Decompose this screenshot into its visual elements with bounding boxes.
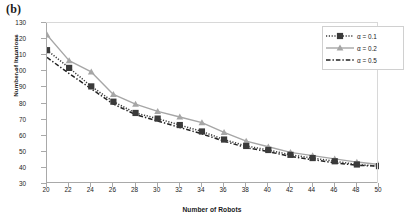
y-tick-label: 110	[0, 51, 26, 58]
x-tick-mark	[245, 183, 246, 187]
data-point	[376, 163, 379, 169]
x-tick-mark	[378, 183, 379, 187]
y-tick-mark	[41, 135, 46, 136]
y-tick-label: 40	[0, 163, 26, 170]
data-point	[332, 158, 338, 164]
x-tick-mark	[112, 183, 113, 187]
legend-item-3[interactable]: α = 0.5	[325, 54, 400, 66]
y-tick-mark	[41, 38, 46, 39]
x-tick-mark	[312, 183, 313, 187]
legend-label: α = 0.2	[355, 45, 377, 52]
legend-label: α = 0.1	[355, 33, 377, 40]
data-point	[221, 136, 227, 142]
data-point	[110, 99, 116, 105]
data-point	[265, 147, 271, 153]
x-tick-mark	[223, 183, 224, 187]
legend-label: α = 0.5	[355, 57, 377, 64]
y-tick-label: 100	[0, 67, 26, 74]
legend-swatch	[325, 31, 355, 41]
data-point	[155, 116, 161, 122]
x-tick-mark	[46, 183, 47, 187]
x-tick-mark	[68, 183, 69, 187]
legend-swatch	[325, 55, 355, 65]
y-tick-label: 70	[0, 115, 26, 122]
data-point	[47, 31, 50, 37]
y-tick-label: 60	[0, 131, 26, 138]
y-tick-label: 120	[0, 35, 26, 42]
y-tick-mark	[41, 22, 46, 23]
data-point	[88, 69, 95, 75]
x-tick-mark	[356, 183, 357, 187]
data-point	[88, 83, 94, 89]
y-tick-mark	[41, 119, 46, 120]
y-tick-label: 50	[0, 147, 26, 154]
x-tick-mark	[334, 183, 335, 187]
chart-container: (b) Number of Iterations Number of Robot…	[0, 0, 407, 220]
legend: α = 0.1α = 0.2α = 0.5	[322, 26, 404, 70]
data-point	[47, 47, 50, 53]
y-tick-label: 130	[0, 19, 26, 26]
series-3	[47, 57, 379, 166]
x-tick-label: 50	[363, 186, 393, 193]
data-point	[354, 161, 360, 167]
data-point	[310, 155, 316, 161]
y-tick-label: 30	[0, 180, 26, 187]
data-point	[132, 110, 138, 116]
data-point	[199, 128, 205, 134]
x-tick-mark	[157, 183, 158, 187]
data-point	[287, 152, 293, 158]
y-tick-mark	[41, 54, 46, 55]
y-tick-mark	[41, 86, 46, 87]
legend-swatch	[325, 43, 355, 53]
legend-item-2[interactable]: α = 0.2	[325, 42, 400, 54]
y-tick-label: 90	[0, 83, 26, 90]
data-point	[243, 143, 249, 149]
x-tick-mark	[135, 183, 136, 187]
x-tick-mark	[179, 183, 180, 187]
legend-item-1[interactable]: α = 0.1	[325, 30, 400, 42]
y-tick-mark	[41, 70, 46, 71]
y-tick-mark	[41, 151, 46, 152]
y-tick-mark	[41, 103, 46, 104]
x-axis-label: Number of Robots	[46, 206, 378, 213]
y-tick-label: 80	[0, 99, 26, 106]
data-point	[66, 65, 72, 71]
x-tick-mark	[267, 183, 268, 187]
x-tick-mark	[201, 183, 202, 187]
y-tick-mark	[41, 167, 46, 168]
data-point	[177, 122, 183, 128]
x-tick-mark	[90, 183, 91, 187]
x-tick-mark	[289, 183, 290, 187]
